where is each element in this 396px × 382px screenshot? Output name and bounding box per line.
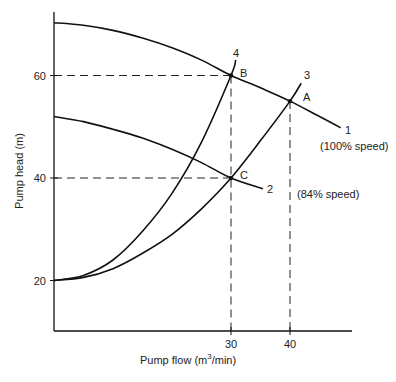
curve-annotation-1: (100% speed)	[320, 140, 389, 152]
point-a	[288, 99, 292, 103]
point-b	[229, 73, 233, 77]
y-axis-label: Pump head (m)	[13, 133, 25, 209]
point-label-b: B	[240, 67, 247, 79]
x-axis-label-base: Pump flow (m	[140, 354, 207, 366]
curve-3	[54, 83, 301, 280]
curve-label-1: 1	[345, 124, 351, 136]
point-c	[229, 176, 233, 180]
curve-annotation-2: (84% speed)	[297, 188, 359, 200]
y-tick-label-40: 40	[34, 172, 46, 184]
x-axis-label-tail: /min)	[212, 354, 236, 366]
reference-lines	[54, 76, 290, 332]
point-label-a: A	[303, 91, 311, 103]
curve-label-3: 3	[304, 69, 310, 81]
curves	[54, 23, 341, 281]
x-tick-label-30: 30	[225, 338, 237, 350]
pump-curve-chart: 60 40 20 30 40 Pump head (m) Pump flow (…	[0, 0, 396, 382]
curve-4	[54, 60, 236, 280]
ticks	[50, 76, 290, 336]
point-label-c: C	[240, 169, 248, 181]
y-tick-label-60: 60	[34, 70, 46, 82]
x-tick-label-40: 40	[284, 338, 296, 350]
x-axis-label: Pump flow (m3/min)	[140, 352, 236, 366]
curve-label-4: 4	[233, 47, 239, 59]
y-tick-label-20: 20	[34, 275, 46, 287]
operating-points	[229, 73, 292, 180]
curve-label-2: 2	[267, 183, 273, 195]
